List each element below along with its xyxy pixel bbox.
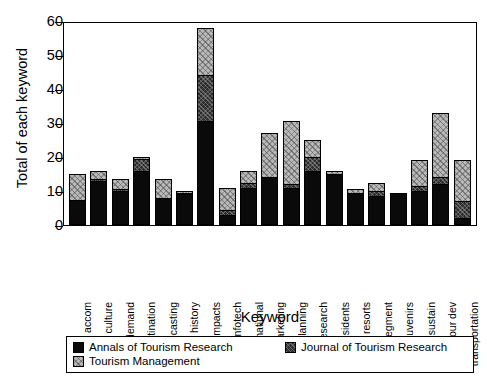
bar-segment-tourism-management (261, 133, 278, 177)
bar-planning (283, 121, 300, 225)
y-tick-10: 10 (0, 192, 63, 193)
bar-segment-tourism-management (368, 183, 385, 192)
bar-segment-annals-of-tourism-research (347, 193, 364, 225)
bar-segment-tourism-management (112, 179, 129, 189)
y-axis-title: Total of each keyword (14, 18, 30, 218)
bar-segment-tourism-management (240, 171, 257, 183)
x-tick-segment: segment (369, 226, 386, 306)
bar-segment-tourism-management (454, 160, 471, 201)
legend-swatch-journal-icon (285, 342, 296, 353)
bar-segment-annals-of-tourism-research (304, 171, 321, 225)
bar-international (240, 171, 257, 225)
bar-research (304, 140, 321, 225)
chart-legend: Annals of Tourism Research Journal of To… (66, 336, 474, 373)
bar-segment-annals-of-tourism-research (240, 188, 257, 225)
legend-item-tourism: Tourism Management (73, 354, 285, 368)
y-tick-mark (55, 56, 63, 57)
y-tick-50: 50 (0, 56, 63, 57)
y-tick-mark (55, 158, 63, 159)
bars-container (64, 23, 476, 225)
bar-segment-tourism-management (90, 171, 107, 180)
bar-segment (368, 183, 385, 225)
bar-impacts (197, 28, 214, 225)
bar-segment-annals-of-tourism-research (390, 193, 407, 225)
y-tick-0: 0 (0, 226, 63, 227)
bar-sustain (411, 160, 428, 225)
x-tick-souvenirs: souvenirs (391, 226, 408, 306)
bar-history (176, 191, 193, 225)
bar-segment-tourism-management (197, 28, 214, 76)
bar-segment-annals-of-tourism-research (176, 194, 193, 225)
y-tick-mark (55, 226, 63, 227)
bar-infotech (219, 188, 236, 225)
x-tick-tour-dev: tour dev (434, 226, 451, 306)
bar-transportation (454, 160, 471, 225)
x-tick-transportation: transportation (455, 226, 472, 306)
y-tick-30: 30 (0, 124, 63, 125)
y-tick-40: 40 (0, 90, 63, 91)
bar-segment-tourism-management (411, 160, 428, 186)
bar-culture (90, 171, 107, 225)
bar-marketing (261, 133, 278, 225)
bar-segment-journal-of-tourism-research (133, 159, 150, 171)
x-tick-research: research (305, 226, 322, 306)
bar-forecasting (155, 179, 172, 225)
bar-accom (69, 174, 86, 225)
x-tick-resorts: resorts (348, 226, 365, 306)
x-axis-title: Keyword (63, 308, 477, 325)
bar-segment-annals-of-tourism-research (69, 200, 86, 226)
legend-row-1: Annals of Tourism Research Journal of To… (73, 340, 468, 354)
y-tick-60: 60 (0, 22, 63, 23)
y-tick-mark (55, 124, 63, 125)
bar-segment-tourism-management (69, 174, 86, 200)
bar-segment-annals-of-tourism-research (368, 196, 385, 225)
bar-segment-annals-of-tourism-research (261, 177, 278, 225)
x-tick-accom: accom (68, 226, 85, 306)
bar-segment-annals-of-tourism-research (112, 191, 129, 225)
bar-segment-annals-of-tourism-research (155, 198, 172, 225)
legend-label-annals: Annals of Tourism Research (89, 340, 233, 354)
legend-label-journal: Journal of Tourism Research (301, 340, 447, 354)
bar-demand (112, 179, 129, 225)
bar-segment-annals-of-tourism-research (326, 174, 343, 225)
legend-label-tourism: Tourism Management (89, 354, 200, 368)
bar-souvenirs (390, 193, 407, 225)
bar-resorts (347, 189, 364, 225)
bar-segment-annals-of-tourism-research (283, 188, 300, 225)
bar-segment-annals-of-tourism-research (197, 121, 214, 225)
legend-row-2: Tourism Management (73, 354, 468, 368)
y-tick-mark (55, 22, 63, 23)
y-tick-mark (55, 90, 63, 91)
x-tick-international: international (240, 226, 257, 306)
x-tick-infotech: infotech (219, 226, 236, 306)
bar-segment-tourism-management (155, 179, 172, 198)
bar-segment-journal-of-tourism-research (197, 75, 214, 121)
x-tick-history: history (176, 226, 193, 306)
bar-segment-journal-of-tourism-research (454, 201, 471, 218)
x-tick-culture: culture (90, 226, 107, 306)
bar-segment-annals-of-tourism-research (454, 218, 471, 225)
bar-segment-annals-of-tourism-research (432, 184, 449, 225)
legend-swatch-tourism-icon (73, 356, 84, 367)
x-tick-demand: demand (111, 226, 128, 306)
x-tick-impacts: impacts (197, 226, 214, 306)
x-tick-residents: residents (326, 226, 343, 306)
bar-chart-figure: Total of each keyword 0102030405060 acco… (0, 0, 487, 383)
x-tick-forecasting: forecasting (154, 226, 171, 306)
bar-segment-tourism-management (432, 113, 449, 178)
x-tick-destination: destination (133, 226, 150, 306)
bar-segment-annals-of-tourism-research (411, 191, 428, 225)
bar-segment-annals-of-tourism-research (219, 215, 236, 225)
legend-item-journal: Journal of Tourism Research (285, 340, 447, 354)
bar-segment-tourism-management (283, 121, 300, 184)
bar-segment-annals-of-tourism-research (133, 171, 150, 225)
bar-segment-tourism-management (219, 188, 236, 210)
legend-swatch-annals-icon (73, 342, 84, 353)
bar-segment-journal-of-tourism-research (432, 177, 449, 184)
plot-area (63, 22, 477, 226)
bar-residents (326, 171, 343, 225)
x-tick-marketing: marketing (262, 226, 279, 306)
bar-tour-dev (432, 113, 449, 225)
bar-segment-annals-of-tourism-research (90, 181, 107, 225)
legend-item-annals: Annals of Tourism Research (73, 340, 285, 354)
